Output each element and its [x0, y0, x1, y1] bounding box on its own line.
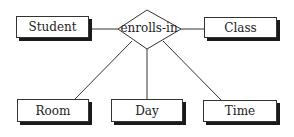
connector-time	[163, 41, 221, 100]
entity-label: Day	[135, 104, 159, 118]
entity-label: Student	[28, 20, 76, 34]
entity-class[interactable]: Class	[205, 18, 281, 42]
entity-time[interactable]: Time	[204, 101, 281, 126]
relationship-enrolls-in[interactable]: enrolls-in	[118, 10, 181, 49]
er-diagram: Student enrolls-in Class Room Day Time	[0, 0, 294, 137]
entity-label: Time	[225, 104, 255, 118]
entity-room[interactable]: Room	[18, 100, 93, 126]
entity-student[interactable]: Student	[17, 17, 93, 42]
entity-label: Room	[36, 104, 71, 118]
entity-day[interactable]: Day	[112, 100, 187, 126]
relationship-label: enrolls-in	[120, 21, 178, 35]
entity-label: Class	[224, 21, 257, 35]
connector-room	[75, 41, 132, 99]
